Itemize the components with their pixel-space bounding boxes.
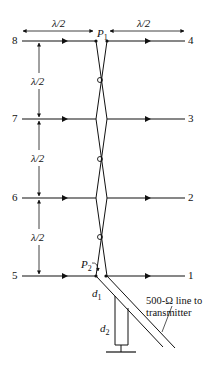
terminal-7: 7 xyxy=(12,113,18,124)
point-p1-label: P1 xyxy=(97,28,108,42)
feed-line-label-1: 500-Ω line to xyxy=(146,296,202,307)
dim-label-top-left: λ/2 xyxy=(52,18,65,29)
dim-label-vertical-3: λ/2 xyxy=(31,232,44,243)
feed-line-label-2: transmitter xyxy=(146,308,192,319)
terminal-2: 2 xyxy=(188,192,194,203)
terminal-4: 4 xyxy=(188,35,194,46)
dim-label-top-right: λ/2 xyxy=(137,18,150,29)
stub-distance-d1: d1 xyxy=(92,288,102,302)
dim-label-vertical-2: λ/2 xyxy=(31,153,44,164)
terminal-5: 5 xyxy=(12,270,18,281)
stub-length-d2: d2 xyxy=(100,323,110,337)
terminal-6: 6 xyxy=(12,192,18,203)
terminal-1: 1 xyxy=(188,270,194,281)
point-p2-label: P2 xyxy=(81,259,92,273)
dim-label-vertical-1: λ/2 xyxy=(31,76,44,87)
current-direction-arrows xyxy=(62,38,151,279)
matching-stub xyxy=(106,296,136,352)
terminal-3: 3 xyxy=(188,113,194,124)
terminal-8: 8 xyxy=(12,35,18,46)
